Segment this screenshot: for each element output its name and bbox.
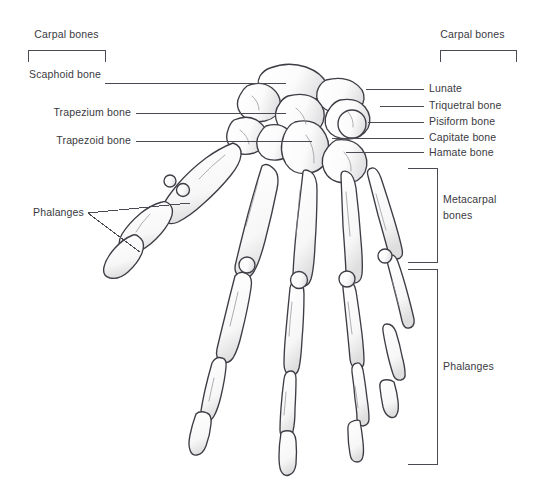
- joint-index-mcp: [239, 257, 255, 273]
- label-lunate: Lunate: [429, 82, 462, 95]
- label-carpal-bones-right: Carpal bones: [406, 28, 539, 41]
- label-scaphoid-bone: Scaphoid bone: [0, 68, 101, 81]
- joint-little-mcp: [378, 249, 392, 263]
- label-phalanges-right: Phalanges: [443, 360, 494, 373]
- label-metacarpal-bones-line1: Metacarpal: [443, 193, 496, 206]
- bone-sesamoid-2: [177, 184, 190, 197]
- label-phalanges-left: Phalanges: [0, 206, 84, 219]
- bone-middle-middle-phalanx: [280, 371, 296, 438]
- label-pisiform-bone: Pisiform bone: [429, 115, 495, 128]
- bone-thumb-distal-phalanx: [104, 235, 144, 279]
- bone-group: [104, 64, 415, 475]
- bone-ring-distal-phalanx: [348, 420, 364, 462]
- joint-middle-mcp: [291, 272, 308, 289]
- bone-index-proximal-phalanx: [217, 272, 252, 362]
- joint-ring-mcp: [339, 271, 355, 287]
- bone-ring-middle-phalanx: [352, 363, 369, 426]
- label-triquetral-bone: Triquetral bone: [429, 99, 501, 112]
- bone-ring-proximal-phalanx: [343, 281, 364, 369]
- bone-capitate: [281, 121, 328, 174]
- bone-little-proximal-phalanx: [387, 255, 414, 328]
- bone-metacarpal-5: [368, 168, 403, 259]
- bone-little-middle-phalanx: [383, 324, 405, 380]
- bracket-metacarpal: [408, 168, 437, 262]
- bone-sesamoid-1: [164, 175, 176, 187]
- bone-middle-proximal-phalanx: [284, 282, 304, 375]
- bone-scaphoid: [237, 83, 280, 121]
- label-trapezium-bone: Trapezium bone: [0, 106, 131, 119]
- label-trapezoid-bone: Trapezoid bone: [0, 134, 131, 147]
- bone-metacarpal-4: [341, 171, 362, 283]
- diagram-canvas: Carpal bones Scaphoid bone Trapezium bon…: [0, 0, 539, 496]
- bone-little-distal-phalanx: [380, 380, 399, 418]
- bracket-carpal-left: [28, 50, 105, 62]
- label-metacarpal-bones-line2: bones: [443, 209, 472, 222]
- bone-index-middle-phalanx: [201, 358, 226, 421]
- label-capitate-bone: Capitate bone: [429, 131, 496, 144]
- label-hamate-bone: Hamate bone: [429, 146, 494, 159]
- bone-middle-distal-phalanx: [279, 431, 297, 476]
- bracket-phalanges: [408, 269, 437, 464]
- bone-pisiform: [338, 110, 366, 138]
- label-carpal-bones-left: Carpal bones: [0, 28, 133, 41]
- bone-index-distal-phalanx: [189, 412, 211, 455]
- bracket-carpal-right: [440, 50, 516, 62]
